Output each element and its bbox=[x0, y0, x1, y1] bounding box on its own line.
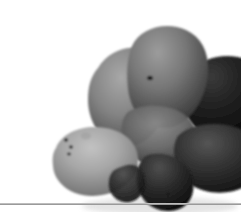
horizontal-divider bbox=[0, 203, 241, 205]
potato-bottom-left-lobe bbox=[109, 165, 145, 202]
potato-bottom-left-lobe-body bbox=[109, 165, 145, 202]
potato-photo-canvas: Cluster of potatoes bbox=[40, 16, 241, 212]
potato-left-eye-icon-2 bbox=[69, 145, 73, 149]
potato-top-center-eye-icon bbox=[147, 75, 154, 80]
page-root: Cluster of potatoes bbox=[0, 0, 241, 212]
potato-bottom-center-eye-icon bbox=[166, 192, 171, 196]
potato-left-eye-icon-1 bbox=[64, 138, 69, 142]
potato-left-eye-icon-3 bbox=[67, 152, 71, 156]
potato-photo: Cluster of potatoes bbox=[40, 16, 241, 212]
potato-left-blemish bbox=[81, 133, 91, 140]
